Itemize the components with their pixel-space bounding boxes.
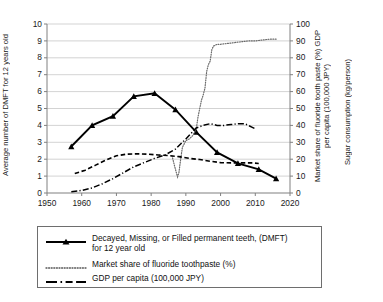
legend-item[interactable]: Decayed, Missing, or Filled permanent te… xyxy=(44,233,288,254)
series-line-3 xyxy=(75,154,259,174)
legend-symbol-dotted-line xyxy=(44,259,88,270)
chart-legend: Decayed, Missing, or Filled permanent te… xyxy=(37,226,322,288)
legend-label: Decayed, Missing, or Filled permanent te… xyxy=(92,233,288,254)
legend-symbol-dash-dot-line xyxy=(44,273,88,284)
chart-figure: Average number of DMFT for 12 years old … xyxy=(0,0,383,302)
legend-item[interactable]: GDP per capita (100,000 JPY) xyxy=(44,273,204,284)
legend-symbol-solid-line-triangle-marker xyxy=(44,233,88,244)
legend-label: GDP per capita (100,000 JPY) xyxy=(92,273,204,283)
series-line-0 xyxy=(71,93,276,178)
legend-label: Market share of fluoride toothpaste (%) xyxy=(92,259,235,269)
legend-item[interactable]: Market share of fluoride toothpaste (%) xyxy=(44,259,235,270)
